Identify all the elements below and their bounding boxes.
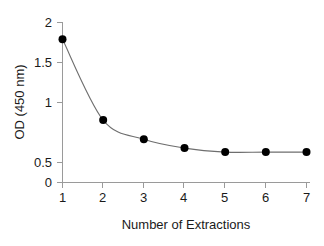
x-tick-label-5: 5 [221,190,228,205]
y-tick-label-0-5: 0.5 [34,155,52,170]
series-markers-group [59,35,311,156]
y-axis-title: OD (450 nm) [12,64,27,139]
data-point-marker [99,116,107,124]
data-point-marker [59,35,67,43]
data-point-marker [181,144,189,152]
x-axis-title: Number of Extractions [122,217,251,232]
x-tick-label-4: 4 [180,190,187,205]
x-tick-label-2: 2 [99,190,106,205]
x-tick-label-7: 7 [303,190,310,205]
x-tick-label-3: 3 [140,190,147,205]
data-point-marker [303,148,311,156]
chart-figure: 0 0.5 1 1.5 2 1 2 3 4 5 6 7 Number of Ex… [0,0,324,246]
y-tick-label-1: 1 [45,95,52,110]
series-line-od [63,39,307,152]
y-tick-label-2: 2 [45,15,52,30]
y-tick-label-1-5: 1.5 [34,55,52,70]
y-tick-label-0: 0 [45,175,52,190]
data-point-marker [262,148,270,156]
chart-plot: 0 0.5 1 1.5 2 1 2 3 4 5 6 7 Number of Ex… [0,0,324,246]
data-point-marker [221,148,229,156]
x-tick-label-1: 1 [59,190,66,205]
x-tick-label-6: 6 [262,190,269,205]
data-point-marker [140,135,148,143]
